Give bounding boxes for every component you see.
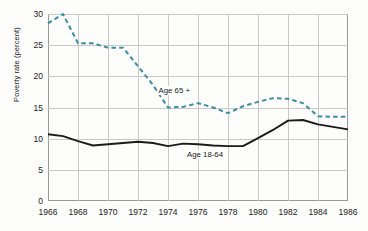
x-tick-label: 1968 <box>69 207 88 217</box>
plot-area: Age 65 +Age 18-64 <box>48 14 348 201</box>
x-tick-label: 1970 <box>99 207 118 217</box>
x-tick-label: 1978 <box>219 207 238 217</box>
y-tick-label: 10 <box>34 134 43 144</box>
poverty-rate-line-chart: Poverty rate (percent) Age 65 +Age 18-64… <box>0 0 368 231</box>
series-line-age-65 <box>48 14 348 117</box>
y-tick-label: 30 <box>34 9 43 19</box>
x-tick-label: 1980 <box>249 207 268 217</box>
x-tick-label: 1974 <box>159 207 178 217</box>
y-axis-title: Poverty rate (percent) <box>12 5 21 125</box>
x-tick-label: 1986 <box>339 207 358 217</box>
y-tick-label: 20 <box>34 71 43 81</box>
series-layer <box>48 14 348 201</box>
x-tick-label: 1984 <box>309 207 328 217</box>
x-tick-label: 1982 <box>279 207 298 217</box>
x-tick-label: 1972 <box>129 207 148 217</box>
series-annotation: Age 65 + <box>158 86 191 95</box>
y-tick-label: 0 <box>38 196 43 206</box>
series-line-age-18-64 <box>48 120 348 146</box>
x-tick-label: 1976 <box>189 207 208 217</box>
x-tick-label: 1966 <box>39 207 58 217</box>
series-annotation: Age 18-64 <box>186 150 224 159</box>
y-tick-label: 25 <box>34 40 43 50</box>
y-tick-label: 5 <box>38 165 43 175</box>
y-tick-label: 15 <box>34 103 43 113</box>
